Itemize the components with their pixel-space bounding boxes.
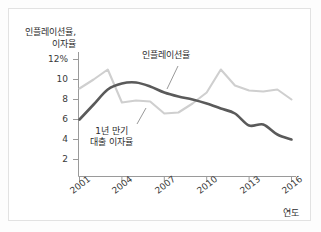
annotation-loan-line1: 1년 만기 [90, 126, 133, 137]
chart-figure: 인플레이션율, 이자율 12% 10 8 6 4 2 2001 2004 200… [0, 0, 321, 232]
annotation-inflation-rate: 인플레이션율 [142, 50, 190, 61]
leader-line-inflation [167, 66, 178, 89]
y-axis-title-line1: 인플레이션율, [14, 26, 76, 38]
annotation-loan-interest-rate: 1년 만기 대출 이자율 [90, 126, 133, 148]
y-tick-label-6: 6 [44, 114, 68, 125]
y-tick-label-4: 4 [44, 134, 68, 145]
y-tick-marks [73, 60, 79, 160]
y-tick-label-8: 8 [44, 94, 68, 105]
x-axis-title: 연도 [283, 208, 299, 219]
y-tick-label-10: 10 [44, 74, 68, 85]
y-axis-title: 인플레이션율, 이자율 [14, 26, 76, 50]
leader-line-loan [137, 108, 146, 124]
y-tick-label-12: 12% [44, 54, 68, 65]
annotation-loan-line2: 대출 이자율 [90, 137, 133, 148]
series-inflation-rate [80, 70, 292, 114]
y-axis-title-line2: 이자율 [14, 38, 76, 50]
y-tick-label-2: 2 [44, 154, 68, 165]
